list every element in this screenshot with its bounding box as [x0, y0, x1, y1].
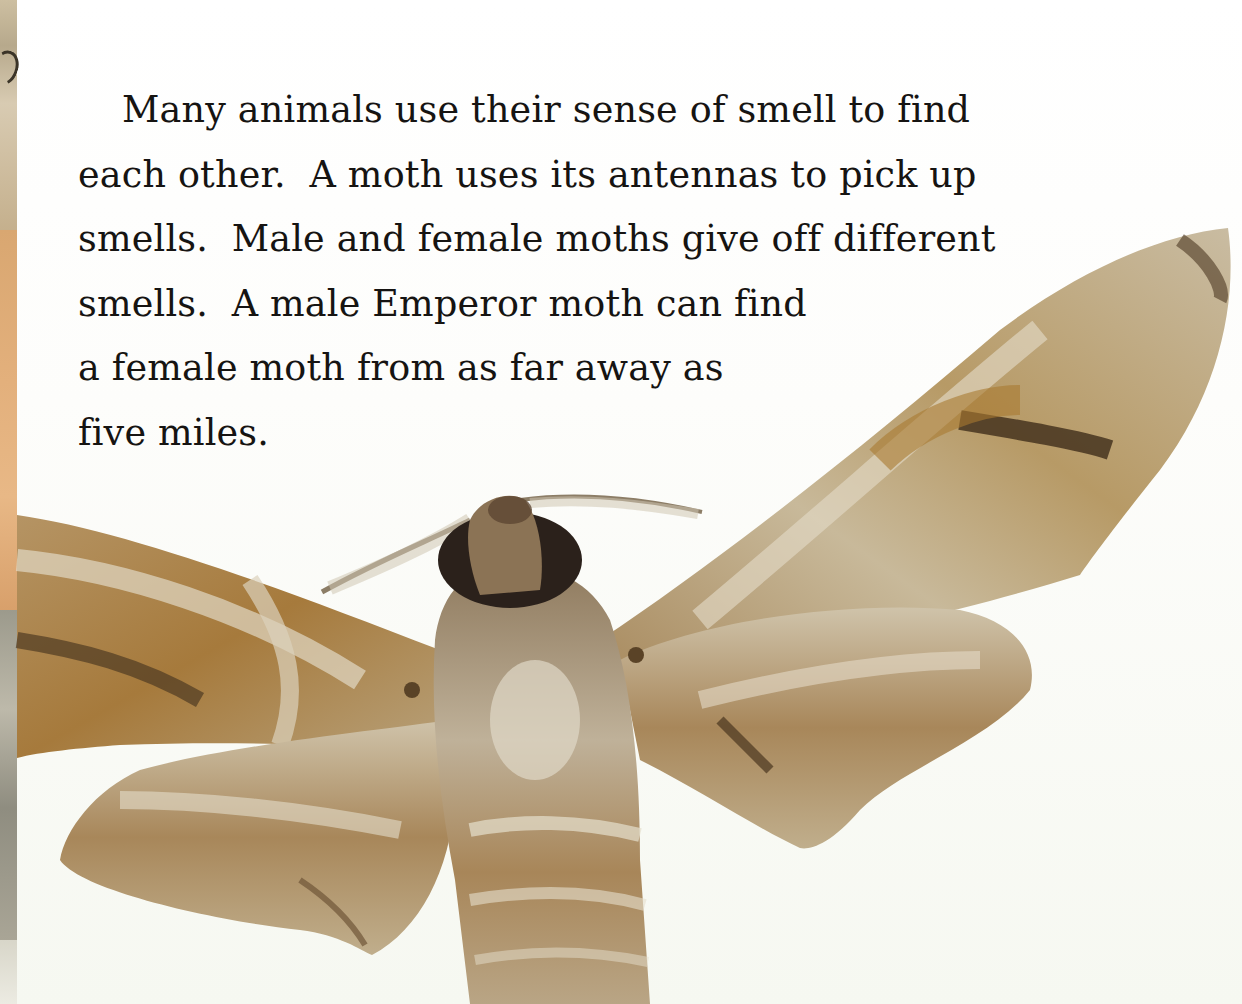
body-paragraph: Many animals use their sense of smell to…	[78, 78, 1088, 465]
paragraph-line-4: smells. A male Emperor moth can find	[78, 272, 1088, 337]
book-page: Many animals use their sense of smell to…	[0, 0, 1242, 1004]
paragraph-line-3: smells. Male and female moths give off d…	[78, 207, 1088, 272]
paragraph-line-1: Many animals use their sense of smell to…	[78, 78, 1088, 143]
paragraph-line-6: five miles.	[78, 401, 1088, 466]
paragraph-line-2: each other. A moth uses its antennas to …	[78, 143, 1088, 208]
paragraph-line-5: a female moth from as far away as	[78, 336, 1088, 401]
